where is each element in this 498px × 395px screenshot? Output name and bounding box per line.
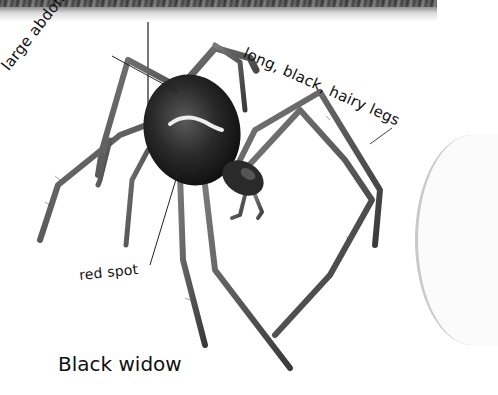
red-spot-leader-line — [150, 166, 180, 265]
caption: Black widow — [58, 352, 182, 376]
legs-leader-line — [370, 128, 392, 144]
